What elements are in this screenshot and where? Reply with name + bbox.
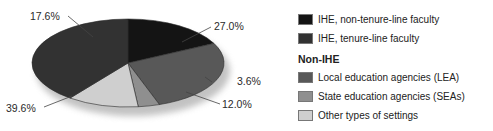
slice-label-non-tenure: 17.6% [30, 10, 60, 22]
slice-label-sea: 3.6% [237, 75, 261, 87]
legend-swatch [298, 91, 313, 102]
legend-item-lea: Local education agencies (LEA) [298, 68, 465, 87]
slice-label-other: 12.0% [222, 98, 252, 110]
legend-swatch [298, 33, 313, 44]
legend-item-tenure: IHE, tenure-line faculty [298, 29, 465, 48]
pie-slices [32, 19, 224, 107]
legend-label: Other types of settings [318, 110, 418, 121]
legend-label: State education agencies (SEAs) [318, 91, 465, 102]
legend-label: Local education agencies (LEA) [318, 72, 459, 83]
legend-item-sea: State education agencies (SEAs) [298, 87, 465, 106]
slice-label-tenure: 39.6% [6, 102, 36, 114]
legend-label: IHE, tenure-line faculty [318, 33, 419, 44]
legend-item-non-tenure: IHE, non-tenure-line faculty [298, 10, 465, 29]
legend-swatch [298, 72, 313, 83]
legend-swatch [298, 110, 313, 121]
legend-group-title: Non-IHE [298, 53, 465, 68]
slice-label-lea: 27.0% [214, 20, 244, 32]
legend: IHE, non-tenure-line faculty IHE, tenure… [298, 10, 465, 125]
legend-swatch [298, 14, 313, 25]
legend-label: IHE, non-tenure-line faculty [318, 14, 439, 25]
legend-item-other: Other types of settings [298, 106, 465, 125]
